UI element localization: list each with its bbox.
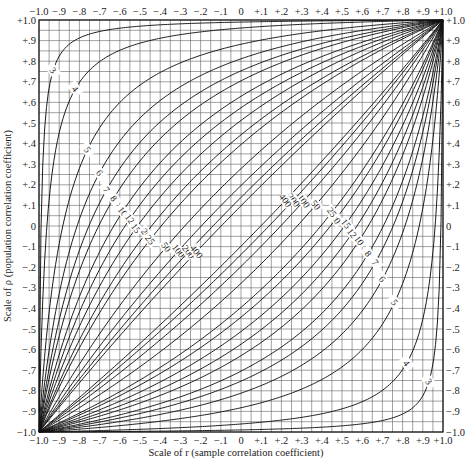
y-tick-label: +.6 (22, 97, 36, 108)
x-tick-label: −.7 (93, 6, 107, 17)
y-axis-left-ticks: +1.0+.9+.8+.7+.6+.5+.4+.3+.2+.10−.1−.2−.… (17, 15, 37, 438)
y-tick-label: −1.0 (17, 427, 36, 438)
y-tick-label: −.6 (446, 344, 460, 355)
x-tick-label: −.1 (214, 6, 228, 17)
x-tick-label: −.7 (93, 435, 107, 446)
x-tick-label: 0 (238, 435, 243, 446)
grid (39, 20, 443, 432)
y-tick-label: −.4 (22, 303, 37, 314)
y-tick-label: −.5 (446, 324, 460, 335)
y-tick-label: −.5 (22, 324, 36, 335)
x-axis-top-ticks: −1.0−.9−.8−.7−.6−.5−.4−.3−.2−.10+.1+.2+.… (29, 6, 452, 17)
y-tick-label: −.2 (446, 262, 460, 273)
y-tick-label: −.8 (446, 385, 460, 396)
x-tick-label: +.3 (295, 6, 309, 17)
y-tick-label: +.9 (446, 35, 460, 46)
y-tick-label: −.9 (446, 406, 460, 417)
x-tick-label: −.5 (133, 435, 147, 446)
y-tick-label: +.8 (22, 56, 36, 67)
x-tick-label: −.5 (133, 6, 147, 17)
y-tick-label: −.1 (446, 241, 460, 252)
y-tick-label: +.7 (446, 76, 460, 87)
x-tick-label: 0 (238, 6, 243, 17)
x-tick-label: +.4 (315, 435, 330, 446)
x-tick-label: +.9 (416, 6, 430, 17)
x-tick-label: −.9 (52, 6, 66, 17)
x-tick-label: +.6 (355, 6, 369, 17)
x-tick-label: +.2 (275, 6, 289, 17)
x-tick-label: −.3 (174, 6, 188, 17)
x-tick-label: +.9 (416, 435, 430, 446)
y-tick-label: −.3 (22, 282, 36, 293)
x-tick-label: +.7 (376, 6, 390, 17)
y-tick-label: +.1 (446, 200, 460, 211)
y-tick-label: +.5 (22, 118, 36, 129)
x-tick-label: +.3 (295, 435, 309, 446)
x-tick-label: −.2 (194, 6, 208, 17)
x-tick-label: +.8 (396, 435, 410, 446)
x-tick-label: −.8 (73, 435, 87, 446)
y-tick-label: −.7 (446, 365, 460, 376)
x-tick-label: +.2 (275, 435, 289, 446)
x-tick-label: −.9 (52, 435, 66, 446)
y-tick-label: −.6 (22, 344, 36, 355)
x-tick-label: +.8 (396, 6, 410, 17)
y-axis-title: Scale of ρ (population correlation coeff… (2, 130, 14, 322)
x-tick-label: −.8 (73, 6, 87, 17)
y-tick-label: +1.0 (17, 15, 36, 26)
x-tick-label: −.2 (194, 435, 208, 446)
y-tick-label: +.9 (22, 35, 36, 46)
y-tick-label: −1.0 (446, 427, 465, 438)
x-tick-label: −.6 (113, 435, 127, 446)
y-tick-label: +.4 (446, 138, 461, 149)
y-tick-label: +1.0 (446, 15, 465, 26)
y-tick-label: −.8 (22, 385, 36, 396)
x-tick-label: +.1 (254, 435, 268, 446)
x-tick-label: +.5 (335, 6, 349, 17)
x-tick-label: +.7 (376, 435, 390, 446)
x-tick-label: −.1 (214, 435, 228, 446)
x-tick-label: +.1 (254, 6, 268, 17)
y-tick-label: −.2 (22, 262, 36, 273)
x-axis-title: Scale of r (sample correlation coefficie… (148, 447, 324, 459)
x-tick-label: −.3 (174, 435, 188, 446)
y-tick-label: −.7 (22, 365, 36, 376)
y-tick-label: +.4 (22, 138, 37, 149)
x-axis-bottom-ticks: −1.0−.9−.8−.7−.6−.5−.4−.3−.2−.10+.1+.2+.… (29, 435, 452, 446)
y-tick-label: +.1 (22, 200, 36, 211)
y-tick-label: +.3 (22, 159, 36, 170)
x-tick-label: +.6 (355, 435, 369, 446)
x-tick-label: −.6 (113, 6, 127, 17)
y-tick-label: +.6 (446, 97, 460, 108)
y-tick-label: +.3 (446, 159, 460, 170)
y-tick-label: +.5 (446, 118, 460, 129)
y-tick-label: +.2 (22, 179, 36, 190)
x-tick-label: −.4 (153, 435, 168, 446)
y-tick-label: +.7 (22, 76, 36, 87)
x-tick-label: −.4 (153, 6, 168, 17)
y-tick-label: 0 (31, 221, 36, 232)
y-axis-right-ticks: +1.0+.9+.8+.7+.6+.5+.4+.3+.2+.10−.1−.2−.… (446, 15, 465, 438)
y-tick-label: −.1 (22, 241, 36, 252)
y-tick-label: −.4 (446, 303, 461, 314)
y-tick-label: +.2 (446, 179, 460, 190)
confidence-band-chart: 3344556677881010121215152020252550501001… (0, 0, 467, 462)
x-tick-label: +.4 (315, 6, 330, 17)
y-tick-label: +.8 (446, 56, 460, 67)
y-tick-label: −.3 (446, 282, 460, 293)
y-tick-label: 0 (446, 221, 451, 232)
x-tick-label: +.5 (335, 435, 349, 446)
y-tick-label: −.9 (22, 406, 36, 417)
